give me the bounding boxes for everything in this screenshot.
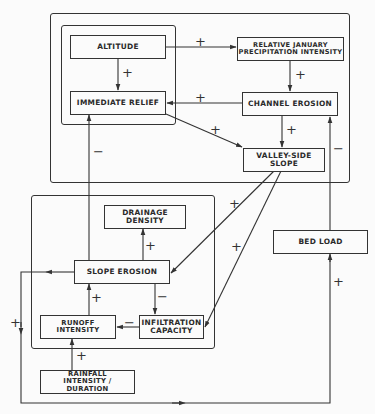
sign-slope-loop-left: + bbox=[10, 316, 21, 329]
sign-loop-bedload: + bbox=[333, 275, 344, 288]
node-immediate-relief: IMMEDIATE RELIEF bbox=[70, 91, 166, 115]
sign-slope-relief: − bbox=[93, 145, 104, 158]
node-rainfall-intensity-duration: RAINFALL INTENSITY / DURATION bbox=[40, 370, 135, 394]
node-infiltration-capacity: INFILTRATION CAPACITY bbox=[139, 315, 204, 339]
sign-bedload-channel: − bbox=[333, 142, 344, 155]
node-channel-erosion: CHANNEL EROSION bbox=[242, 92, 338, 116]
node-bed-load: BED LOAD bbox=[273, 230, 368, 254]
sign-runoff-slope: + bbox=[91, 291, 102, 304]
node-altitude: ALTITUDE bbox=[70, 35, 166, 59]
sign-slope-infiltration: − bbox=[157, 290, 168, 303]
sign-infiltration-runoff: − bbox=[124, 316, 135, 329]
node-runoff-intensity: RUNOFF INTENSITY bbox=[40, 315, 116, 339]
sign-valley-slope: + bbox=[229, 197, 240, 210]
sign-rainfall-runoff: + bbox=[76, 349, 87, 362]
node-drainage-density: DRAINAGE DENSITY bbox=[104, 205, 186, 229]
node-valley-side-slope: VALLEY-SIDE SLOPE bbox=[243, 148, 325, 172]
sign-precip-channel: + bbox=[295, 68, 306, 81]
node-relative-january-precipitation-intensity: RELATIVE JANUARY PRECIPITATION INTENSITY bbox=[237, 37, 344, 61]
sign-channel-relief: + bbox=[195, 91, 206, 104]
node-slope-erosion: SLOPE EROSION bbox=[74, 260, 170, 284]
sign-valley-infiltration: + bbox=[231, 240, 242, 253]
causal-loop-diagram: ALTITUDE RELATIVE JANUARY PRECIPITATION … bbox=[0, 0, 375, 414]
sign-altitude-precip: + bbox=[195, 35, 206, 48]
sign-slope-drainage: + bbox=[145, 239, 156, 252]
sign-channel-valley: + bbox=[286, 123, 297, 136]
sign-relief-valley: + bbox=[210, 123, 221, 136]
sign-altitude-relief: + bbox=[122, 66, 133, 79]
